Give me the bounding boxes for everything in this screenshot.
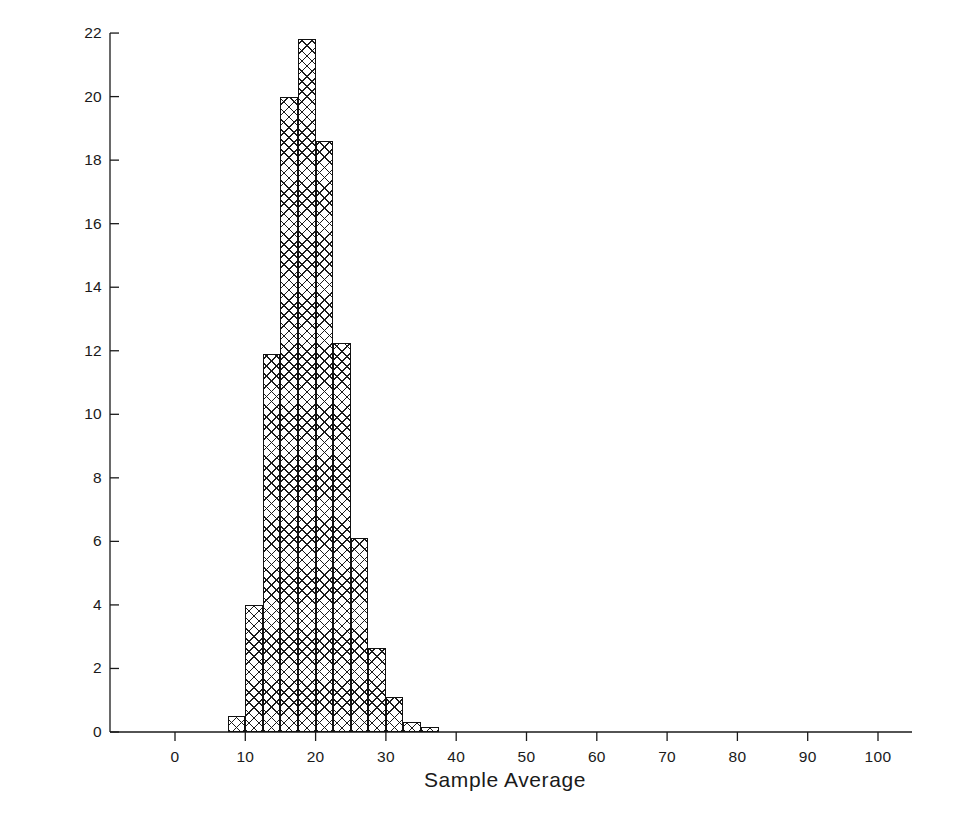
histogram-bar (263, 354, 281, 732)
y-tick-label: 20 (68, 88, 102, 106)
x-tick-label: 40 (447, 748, 465, 766)
y-tick-label: 2 (68, 659, 102, 677)
x-tick-label: 10 (236, 748, 254, 766)
x-tick-label: 80 (728, 748, 746, 766)
x-tick-label: 0 (171, 748, 180, 766)
y-tick-label: 0 (68, 723, 102, 741)
x-tick-label: 30 (377, 748, 395, 766)
y-tick-label: 18 (68, 151, 102, 169)
y-tick-label: 6 (68, 532, 102, 550)
y-tick-label: 4 (68, 596, 102, 614)
histogram-bar (403, 722, 421, 732)
histogram-bar (333, 343, 351, 732)
x-tick-label: 20 (307, 748, 325, 766)
histogram-bar (351, 538, 369, 732)
histogram-bar (280, 97, 298, 732)
histogram-bar (228, 716, 246, 732)
plot-area: 0246810121416182022 01020304050607080901… (0, 0, 970, 823)
y-tick-label: 10 (68, 405, 102, 423)
histogram-bar (298, 39, 316, 732)
x-tick-label: 60 (588, 748, 606, 766)
x-tick-label: 90 (799, 748, 817, 766)
y-tick-label: 8 (68, 469, 102, 487)
histogram-bar (368, 648, 386, 732)
x-tick-label: 100 (865, 748, 892, 766)
histogram-bar (386, 697, 404, 732)
histogram-bar (421, 727, 439, 732)
x-tick-label: 70 (658, 748, 676, 766)
x-tick-label: 50 (518, 748, 536, 766)
y-tick-label: 16 (68, 215, 102, 233)
histogram-figure: Percent of Samples Sample Average 024681… (0, 0, 970, 823)
histogram-bar (316, 141, 334, 732)
axes-lines (0, 0, 970, 823)
histogram-bar (245, 605, 263, 732)
y-tick-label: 22 (68, 24, 102, 42)
y-tick-label: 12 (68, 342, 102, 360)
y-tick-label: 14 (68, 278, 102, 296)
